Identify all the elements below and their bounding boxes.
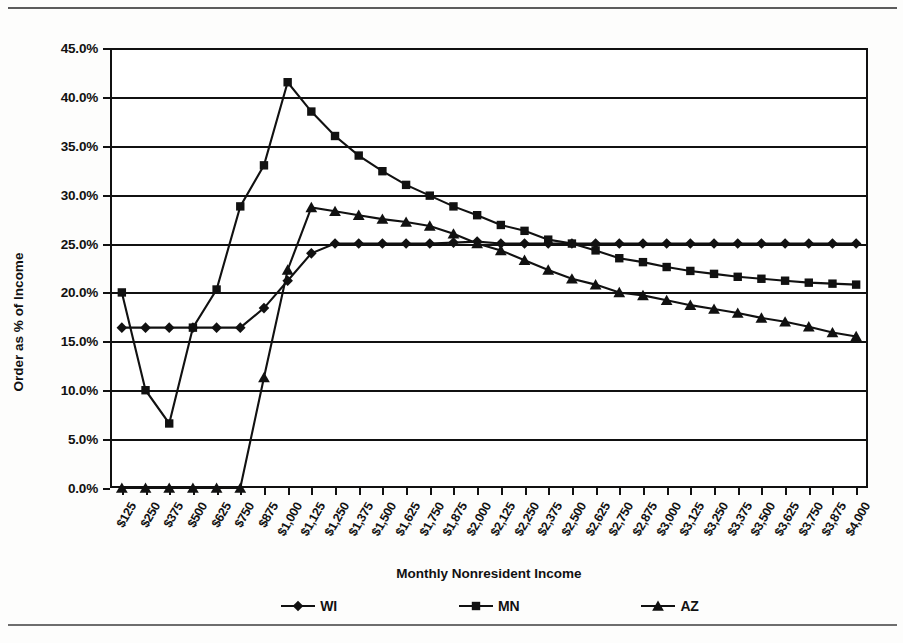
- data-point-marker: [283, 78, 291, 86]
- y-axis-tick: [103, 195, 110, 197]
- y-axis-tick-label: 5.0%: [68, 432, 98, 447]
- chart-page: Order as % of Income 0.0%5.0%10.0%15.0%2…: [0, 0, 903, 643]
- x-axis-tick: [335, 488, 337, 495]
- series-mn: [118, 78, 861, 428]
- x-axis-tick-label: $500: [185, 500, 210, 530]
- x-axis-tick: [525, 488, 527, 495]
- y-axis-tick-label: 35.0%: [61, 138, 98, 153]
- x-axis-tick: [832, 488, 834, 495]
- y-axis-tick: [103, 244, 110, 246]
- x-axis-tick-label: $125: [114, 500, 139, 530]
- y-axis-title: Order as % of Income: [11, 202, 26, 442]
- x-axis-tick: [809, 488, 811, 495]
- data-point-marker: [448, 237, 459, 248]
- x-axis-tick: [288, 488, 290, 495]
- legend-item-mn[interactable]: MN: [457, 598, 519, 614]
- data-point-marker: [424, 238, 435, 249]
- chart-legend: WIMNAZ: [110, 598, 868, 614]
- data-point-marker: [331, 132, 339, 140]
- page-rule-top: [8, 7, 897, 9]
- data-point-marker: [568, 239, 576, 247]
- data-point-marker: [591, 246, 599, 254]
- x-axis-tick-label: $375: [161, 500, 186, 530]
- data-point-marker: [305, 202, 317, 212]
- y-axis-tick: [103, 341, 110, 343]
- data-point-marker: [164, 322, 175, 333]
- data-point-marker: [282, 264, 294, 274]
- data-point-marker: [757, 275, 765, 283]
- data-point-marker: [639, 258, 647, 266]
- y-axis-tick: [103, 48, 110, 50]
- x-axis-tick-label: $750: [232, 500, 257, 530]
- data-point-marker: [426, 191, 434, 199]
- y-axis-tick-label: 30.0%: [61, 187, 98, 202]
- x-axis-tick-label: $250: [137, 500, 162, 530]
- x-axis-tick: [311, 488, 313, 495]
- y-axis-tick: [103, 488, 110, 490]
- data-point-marker: [662, 263, 670, 271]
- data-point-marker: [852, 280, 860, 288]
- data-point-marker: [710, 270, 718, 278]
- data-point-marker: [851, 238, 862, 249]
- data-point-marker: [497, 221, 505, 229]
- series-az: [116, 202, 862, 493]
- series-line: [122, 207, 856, 488]
- data-point-marker: [307, 107, 315, 115]
- data-point-marker: [519, 238, 530, 249]
- legend-label: MN: [497, 598, 519, 614]
- y-axis-tick-label: 25.0%: [61, 236, 98, 251]
- data-point-marker: [355, 151, 363, 159]
- data-point-marker: [165, 419, 173, 427]
- x-axis-tick: [619, 488, 621, 495]
- square-marker-icon: [457, 599, 495, 613]
- data-point-marker: [330, 238, 341, 249]
- chart-plot-area: 0.0%5.0%10.0%15.0%20.0%25.0%30.0%35.0%40…: [110, 48, 868, 488]
- data-point-marker: [828, 279, 836, 287]
- data-point-marker: [449, 202, 457, 210]
- data-point-marker: [236, 202, 244, 210]
- x-axis-tick: [501, 488, 503, 495]
- y-axis-tick-label: 20.0%: [61, 285, 98, 300]
- x-axis-tick: [714, 488, 716, 495]
- data-point-marker: [473, 211, 481, 219]
- data-point-marker: [471, 238, 483, 248]
- x-axis-title: Monthly Nonresident Income: [110, 566, 868, 581]
- data-point-marker: [377, 238, 388, 249]
- page-rule-bottom: [8, 624, 897, 626]
- x-axis-tick: [430, 488, 432, 495]
- legend-label: WI: [319, 598, 337, 614]
- data-point-marker: [211, 322, 222, 333]
- series-line: [122, 82, 856, 423]
- data-point-marker: [212, 285, 220, 293]
- y-axis-tick: [103, 146, 110, 148]
- data-point-marker: [260, 161, 268, 169]
- data-point-marker: [827, 238, 838, 249]
- y-axis-tick-label: 10.0%: [61, 383, 98, 398]
- x-axis-tick: [761, 488, 763, 495]
- data-point-marker: [614, 238, 625, 249]
- data-point-marker: [709, 238, 720, 249]
- data-point-marker: [378, 167, 386, 175]
- data-point-marker: [734, 273, 742, 281]
- data-point-marker: [781, 277, 789, 285]
- x-axis-tick: [785, 488, 787, 495]
- y-axis-tick-label: 0.0%: [68, 481, 98, 496]
- data-point-marker: [258, 372, 270, 382]
- data-point-marker: [118, 288, 126, 296]
- data-point-marker: [520, 227, 528, 235]
- x-axis-tick: [477, 488, 479, 495]
- legend-item-az[interactable]: AZ: [639, 598, 698, 614]
- x-axis-tick: [856, 488, 858, 495]
- data-point-marker: [780, 238, 791, 249]
- legend-item-wi[interactable]: WI: [279, 598, 337, 614]
- x-axis-tick: [264, 488, 266, 495]
- x-axis-tick: [596, 488, 598, 495]
- x-axis-tick: [359, 488, 361, 495]
- x-axis-tick: [453, 488, 455, 495]
- x-axis-tick: [690, 488, 692, 495]
- data-point-marker: [542, 264, 554, 274]
- data-point-marker: [472, 602, 480, 610]
- data-point-marker: [140, 322, 151, 333]
- data-point-marker: [686, 267, 694, 275]
- data-point-marker: [293, 601, 304, 612]
